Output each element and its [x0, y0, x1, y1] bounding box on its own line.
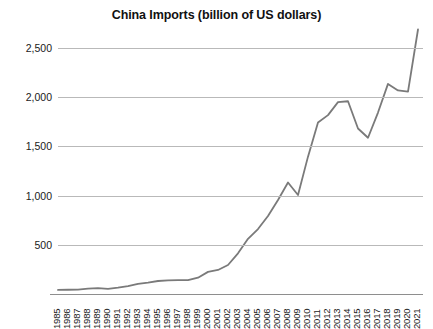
x-axis-baseline: [50, 294, 423, 295]
gridline: [58, 48, 423, 49]
gridline: [58, 146, 423, 147]
series-line-china-imports: [58, 28, 423, 294]
gridline: [58, 97, 423, 98]
y-tick-label: 2,500: [6, 42, 52, 54]
y-tick-label: 500: [6, 239, 52, 251]
y-tick-label: 1,500: [6, 140, 52, 152]
chart-title: China Imports (billion of US dollars): [0, 8, 433, 22]
y-axis: 5001,0001,5002,0002,500: [0, 0, 52, 329]
x-tick-label: 2021: [411, 309, 422, 329]
chart-container: China Imports (billion of US dollars) 50…: [0, 0, 433, 329]
gridline: [58, 196, 423, 197]
plot-area: [58, 28, 423, 294]
gridline: [58, 245, 423, 246]
y-tick-label: 2,000: [6, 91, 52, 103]
x-axis: 1985198619871988198919901991199219931994…: [58, 296, 433, 329]
y-tick-label: 1,000: [6, 190, 52, 202]
